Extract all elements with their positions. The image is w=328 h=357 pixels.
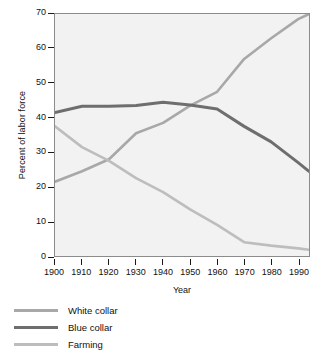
x-tick-label: 1950 [175, 267, 205, 277]
x-tick-label: 1940 [148, 267, 178, 277]
y-axis: 010203040506070 [0, 13, 54, 257]
chart-legend: White collarBlue collarFarming [14, 302, 314, 353]
x-axis-title: Year [54, 285, 310, 295]
x-tick-label: 1980 [257, 267, 287, 277]
chart-figure: Percent of labor force 010203040506070 1… [0, 0, 328, 357]
x-tick-mark [162, 259, 163, 265]
series-line-white-collar [55, 14, 309, 182]
y-tick-label: 0 [41, 251, 46, 261]
legend-label: Blue collar [68, 322, 112, 333]
x-tick-label: 1910 [66, 267, 96, 277]
x-axis: 1900191019201930194019501960197019801990 [54, 257, 310, 283]
legend-item-blue-collar[interactable]: Blue collar [14, 319, 314, 336]
y-tick-label: 10 [36, 216, 46, 226]
x-tick-label: 1920 [93, 267, 123, 277]
x-tick-mark [190, 259, 191, 265]
legend-label: Farming [68, 339, 103, 350]
y-tick-label: 40 [36, 112, 46, 122]
legend-label: White collar [68, 305, 118, 316]
x-tick-mark [299, 259, 300, 265]
x-tick-mark [108, 259, 109, 265]
x-tick-mark [271, 259, 272, 265]
series-lines [55, 14, 309, 256]
series-line-farming [55, 126, 309, 249]
x-tick-mark [135, 259, 136, 265]
x-tick-mark [217, 259, 218, 265]
y-tick-label: 70 [36, 7, 46, 17]
legend-swatch-icon [14, 343, 58, 346]
series-line-blue-collar [55, 102, 309, 171]
y-tick-label: 30 [36, 146, 46, 156]
y-tick-label: 60 [36, 42, 46, 52]
legend-swatch-icon [14, 326, 58, 329]
x-tick-mark [54, 259, 55, 265]
x-tick-label: 1930 [121, 267, 151, 277]
legend-swatch-icon [14, 309, 58, 312]
legend-item-farming[interactable]: Farming [14, 336, 314, 353]
x-tick-label: 1900 [39, 267, 69, 277]
legend-item-white-collar[interactable]: White collar [14, 302, 314, 319]
x-tick-label: 1970 [230, 267, 260, 277]
x-tick-label: 1990 [284, 267, 314, 277]
y-tick-label: 50 [36, 77, 46, 87]
y-tick-label: 20 [36, 181, 46, 191]
plot-area [54, 13, 310, 257]
x-tick-mark [244, 259, 245, 265]
x-tick-label: 1960 [202, 267, 232, 277]
x-tick-mark [81, 259, 82, 265]
